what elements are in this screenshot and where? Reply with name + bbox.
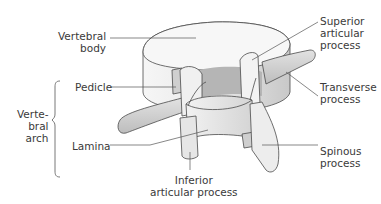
label-line: Inferior (150, 174, 238, 186)
label-line: articular (320, 27, 364, 39)
leader-transverse (286, 72, 318, 96)
label-line: Verte- (17, 108, 49, 120)
label-line: process (320, 39, 364, 51)
label-line: arch (17, 132, 49, 144)
left-transverse-process-shape (118, 98, 184, 133)
label-line: Spinous (320, 145, 361, 157)
label-inferior-articular-process: Inferior articular process (150, 174, 238, 198)
label-line: Transverse (320, 81, 377, 93)
label-line: process (320, 157, 361, 169)
label-line: Superior (320, 15, 364, 27)
label-line: process (320, 93, 377, 105)
inferior-articular-process-shape (180, 116, 198, 159)
label-line: Vertebral (58, 30, 106, 42)
vertebral-arch-brace (52, 81, 60, 177)
label-line: Lamina (72, 140, 111, 152)
label-vertebral-arch: Verte- bral arch (17, 108, 49, 144)
spinous-process-shape (250, 102, 279, 172)
label-pedicle: Pedicle (75, 81, 112, 93)
label-line: bral (17, 120, 49, 132)
label-transverse-process: Transverse process (320, 81, 377, 105)
label-vertebral-body: Vertebral body (58, 30, 106, 54)
label-line: Pedicle (75, 81, 112, 93)
label-line: body (58, 42, 106, 54)
label-spinous-process: Spinous process (320, 145, 361, 169)
label-line: articular process (150, 186, 238, 198)
label-superior-articular-process: Superior articular process (320, 15, 364, 51)
label-lamina: Lamina (72, 140, 111, 152)
